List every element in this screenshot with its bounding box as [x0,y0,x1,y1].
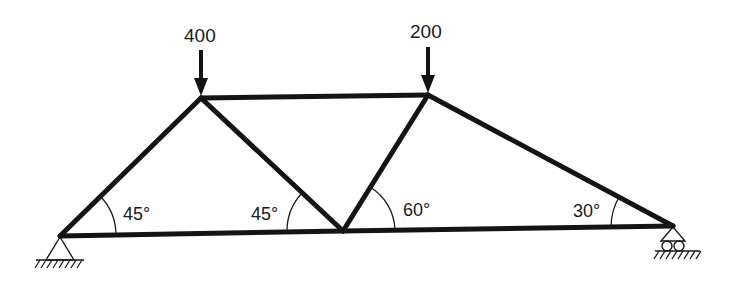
angle-label-E-30: 30° [573,202,600,220]
member-CE [343,226,673,231]
roller-support-icon [654,227,701,259]
down-arrow-icon [421,47,435,93]
load-label-200: 200 [410,22,442,41]
member-BD [201,95,428,98]
angle-label-C-60: 60° [403,201,430,219]
member-DE [428,95,673,226]
angle-arc-C-right [370,187,395,230]
truss-diagram: 400 200 45° 45° 60° 30° [0,0,738,285]
angle-arc-E [611,197,619,227]
angle-arc-A [100,196,116,235]
pin-support-icon [35,237,84,268]
angle-label-A-45: 45° [123,205,150,223]
load-arrows [194,47,435,96]
angle-label-C-45: 45° [251,205,278,223]
member-AC [60,231,343,236]
down-arrow-icon [194,50,208,96]
load-label-400: 400 [184,26,216,45]
angle-arc-C-left [287,193,302,232]
truss-drawing [0,0,738,285]
